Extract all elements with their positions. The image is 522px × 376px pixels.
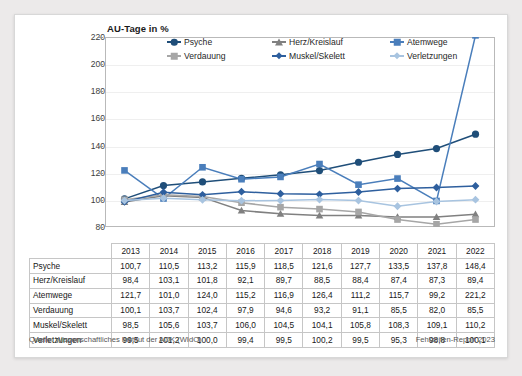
table-cell: 148,4 — [456, 258, 494, 273]
legend-label: Atemwege — [407, 37, 448, 47]
table-cell: 126,4 — [303, 288, 341, 303]
table-column-header: 2016 — [226, 244, 264, 259]
data-point — [277, 174, 284, 181]
data-point — [433, 221, 440, 227]
legend-label: Psyche — [184, 37, 212, 47]
table-cell: 100,1 — [112, 303, 150, 318]
table-cell: 104,1 — [303, 318, 341, 333]
table-row-label: Herz/Kreislauf — [30, 273, 112, 288]
data-point — [472, 131, 479, 138]
square-marker-icon — [390, 41, 404, 43]
data-point — [316, 196, 324, 204]
table-cell: 101,0 — [150, 288, 188, 303]
y-tick-mark — [99, 200, 103, 201]
data-point — [277, 197, 285, 205]
data-point — [355, 209, 362, 216]
table-cell: 94,6 — [265, 303, 303, 318]
triangle-marker-icon — [272, 41, 286, 43]
y-tick-mark — [99, 173, 103, 174]
table-corner-cell — [30, 244, 112, 259]
marker-glyph — [275, 39, 283, 46]
data-point — [199, 164, 206, 171]
legend-item-muskel-skelett[interactable]: Muskel/Skelett — [272, 51, 390, 61]
chart-series-layer — [105, 37, 495, 227]
y-tick-mark — [99, 118, 103, 119]
table-cell: 221,2 — [456, 288, 494, 303]
table-column-header: 2018 — [303, 244, 341, 259]
table-cell: 115,7 — [380, 288, 418, 303]
table-column-header: 2022 — [456, 244, 494, 259]
y-tick-mark — [99, 91, 103, 92]
table-column-header: 2017 — [265, 244, 303, 259]
table-cell: 104,5 — [265, 318, 303, 333]
line-chart: 80100120140160180200220 — [15, 37, 509, 237]
legend-label: Verletzungen — [407, 51, 457, 61]
data-point — [199, 178, 206, 185]
square-marker-icon — [167, 55, 181, 57]
legend-item-herz-kreislauf[interactable]: Herz/Kreislauf — [272, 37, 390, 47]
table-row: Herz/Kreislauf98,4103,1101,892,189,788,5… — [30, 273, 495, 288]
circle-marker-icon — [167, 41, 181, 43]
legend-item-verdauung[interactable]: Verdauung — [167, 51, 272, 61]
table-column-header: 2019 — [341, 244, 379, 259]
table-cell: 89,7 — [265, 273, 303, 288]
table-row: Muskel/Skelett98,5105,6103,7106,0104,510… — [30, 318, 495, 333]
table-row-label: Atemwege — [30, 288, 112, 303]
table-cell: 92,1 — [226, 273, 264, 288]
legend-label: Herz/Kreislauf — [289, 37, 343, 47]
chart-axis-title: AU-Tage in % — [107, 23, 169, 34]
table-column-header: 2014 — [150, 244, 188, 259]
table-cell: 118,5 — [265, 258, 303, 273]
table-cell: 115,2 — [226, 288, 264, 303]
marker-glyph — [171, 53, 178, 60]
series-line-verletzungen — [125, 198, 476, 206]
chart-legend: PsycheHerz/KreislaufAtemwegeVerdauungMus… — [167, 37, 477, 61]
data-table: 2013201420152016201720182019202020212022… — [29, 243, 495, 348]
table-cell: 89,4 — [456, 273, 494, 288]
data-point — [355, 197, 363, 205]
table-cell: 106,0 — [226, 318, 264, 333]
table-row-label: Verdauung — [30, 303, 112, 318]
footer-report: Fehlzeiten-Report 2023 — [416, 335, 495, 344]
table-cell: 87,3 — [418, 273, 456, 288]
data-point — [433, 145, 440, 152]
table-column-header: 2013 — [112, 244, 150, 259]
data-point — [121, 167, 128, 174]
table-column-header: 2015 — [188, 244, 226, 259]
table-column-header: 2020 — [380, 244, 418, 259]
table-cell: 87,4 — [380, 273, 418, 288]
data-table-wrap: 2013201420152016201720182019202020212022… — [29, 243, 495, 348]
table-cell: 115,9 — [226, 258, 264, 273]
marker-glyph — [275, 52, 283, 60]
table-cell: 105,6 — [150, 318, 188, 333]
table-cell: 137,8 — [418, 258, 456, 273]
marker-glyph — [394, 39, 401, 46]
table-cell: 102,4 — [188, 303, 226, 318]
data-point — [394, 175, 401, 182]
table-cell: 100,7 — [112, 258, 150, 273]
table-row: Verdauung100,1103,7102,497,994,693,291,1… — [30, 303, 495, 318]
y-axis: 80100120140160180200220 — [59, 37, 105, 227]
table-cell: 91,1 — [341, 303, 379, 318]
table-cell: 116,9 — [265, 288, 303, 303]
data-point — [355, 181, 362, 188]
table-cell: 88,5 — [303, 273, 341, 288]
table-cell: 82,0 — [418, 303, 456, 318]
table-cell: 88,4 — [341, 273, 379, 288]
table-cell: 121,6 — [303, 258, 341, 273]
legend-item-atemwege[interactable]: Atemwege — [390, 37, 477, 47]
table-cell: 99,2 — [418, 288, 456, 303]
marker-glyph — [393, 52, 401, 60]
table-cell: 103,7 — [188, 318, 226, 333]
legend-item-psyche[interactable]: Psyche — [167, 37, 272, 47]
chart-card: AU-Tage in % 80100120140160180200220 Psy… — [14, 14, 508, 358]
data-point — [277, 204, 284, 211]
data-point — [472, 196, 480, 204]
data-point — [160, 182, 167, 189]
legend-item-verletzungen[interactable]: Verletzungen — [390, 51, 477, 61]
table-column-header: 2021 — [418, 244, 456, 259]
y-tick-mark — [99, 64, 103, 65]
table-cell: 101,8 — [188, 273, 226, 288]
table-cell: 127,7 — [341, 258, 379, 273]
table-cell: 85,5 — [456, 303, 494, 318]
